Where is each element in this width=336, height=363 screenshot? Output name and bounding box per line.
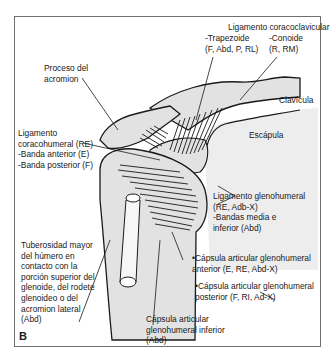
label-scapula: Escápula [249,130,283,141]
label-coracoclavicular: Ligamento coracoclavicular [228,22,329,33]
humerus-shape [100,149,207,340]
panel-label: B [19,330,27,342]
label-posterior-capsule: •Cápsula articular glenohumeral posterio… [195,281,314,302]
label-glenohumeral: Ligamento glenohumeral (RE, Adb-X) -Band… [213,191,305,233]
label-conoid: -Conoide (R, RM) [269,33,303,54]
label-trapezoid: -Trapezoide (F, Abd, P, RL) [205,33,258,54]
label-coracohumeral: Ligamento coracohumeral (RE) -Banda ante… [18,128,93,170]
label-acromion: Proceso del acromion [44,63,88,84]
label-clavicle: Clavícula [279,95,313,106]
label-inferior-capsule: Cápsula articular glenohumeral inferior … [146,314,225,346]
label-tuberosity: Tuberosidad mayor del húmero en contacto… [21,240,95,325]
label-anterior-capsule: •Cápsula articular glenohumeral anterior… [192,253,311,274]
